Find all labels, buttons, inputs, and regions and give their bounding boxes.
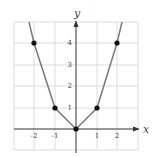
x-axis-label: x xyxy=(143,123,150,136)
chart: -2 -1 1 2 1 2 3 4 x y xyxy=(0,0,158,157)
y-tick-label: 3 xyxy=(68,61,72,69)
x-tick-label: -2 xyxy=(31,132,38,140)
y-axis-arrow-icon xyxy=(74,20,79,27)
x-tick-label: 2 xyxy=(115,132,119,140)
x-tick-label: -1 xyxy=(52,132,59,140)
point xyxy=(52,105,57,110)
point xyxy=(73,126,78,131)
point xyxy=(114,40,119,45)
y-tick-label: 2 xyxy=(68,82,72,90)
x-tick-label: 1 xyxy=(95,132,99,140)
y-tick-label: 4 xyxy=(68,39,73,47)
y-tick-label: 1 xyxy=(68,104,72,112)
y-axis-label: y xyxy=(73,7,81,20)
x-axis-arrow-icon xyxy=(133,127,140,132)
point xyxy=(94,105,99,110)
point xyxy=(31,40,36,45)
